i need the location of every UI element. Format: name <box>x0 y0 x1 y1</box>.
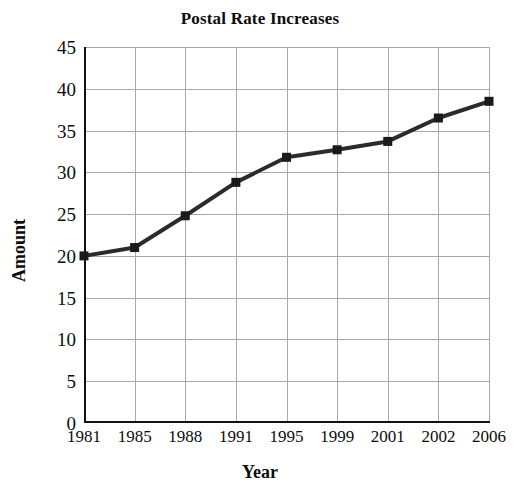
y-tick-label: 35 <box>32 122 76 141</box>
line-series <box>84 47 490 423</box>
data-point-marker <box>383 137 392 146</box>
y-axis-title: Amount <box>2 175 36 325</box>
series-line <box>84 101 489 256</box>
y-tick-label: 40 <box>32 80 76 99</box>
y-tick-label: 20 <box>32 247 76 266</box>
data-point-marker <box>333 145 342 154</box>
y-tick-label: 5 <box>32 372 76 391</box>
y-tick-label: 10 <box>32 330 76 349</box>
y-tick-label: 30 <box>32 163 76 182</box>
data-point-marker <box>130 243 139 252</box>
y-tick-label: 25 <box>32 205 76 224</box>
data-point-marker <box>485 97 494 106</box>
data-point-marker <box>434 114 443 123</box>
data-point-marker <box>181 211 190 220</box>
y-tick-label: 15 <box>32 289 76 308</box>
data-point-marker <box>80 251 89 260</box>
plot-area <box>84 47 490 423</box>
data-point-marker <box>282 153 291 162</box>
y-axis-title-label: Amount <box>9 218 30 281</box>
chart-title: Postal Rate Increases <box>0 9 520 29</box>
y-tick-label: 45 <box>32 38 76 57</box>
data-point-marker <box>231 178 240 187</box>
chart-container: Postal Rate Increases Amount Year 051015… <box>0 0 520 497</box>
x-tick-label: 2006 <box>458 428 520 445</box>
x-axis-title: Year <box>0 462 520 483</box>
